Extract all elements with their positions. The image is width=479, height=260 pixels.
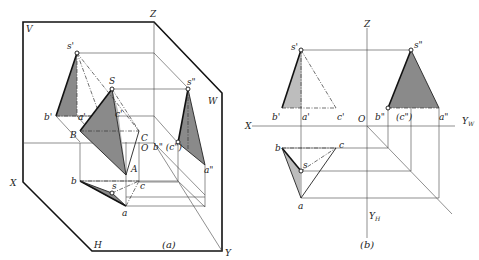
label-b-h: b [71, 176, 77, 186]
label-space-c: C [141, 133, 148, 143]
projection-diagram: V W H Z X Y O s' b' a' c' S B C A s" b" … [0, 0, 479, 260]
label-c-h: c [140, 181, 145, 191]
label-space-b: B [69, 130, 77, 140]
point-s-double-prime [186, 87, 190, 91]
label-space-s: S [109, 76, 115, 86]
label-x-axis-b: X [244, 121, 252, 131]
w-projection-face-b [388, 50, 439, 108]
label-a-prime: a' [78, 112, 86, 122]
caption-b: (b) [360, 239, 374, 250]
caption-a: (a) [162, 239, 176, 250]
label-b-prime: b' [44, 112, 52, 122]
label-s-double-prime: s" [187, 77, 196, 87]
label-b-h-b: b [275, 143, 281, 153]
label-yw: YW [462, 116, 475, 127]
label-origin-b: O [358, 114, 366, 124]
label-y-axis: Y [225, 248, 232, 258]
label-a-double-prime: a" [204, 165, 214, 175]
label-a-prime-b: a' [302, 112, 310, 122]
label-s-h-b: s [303, 160, 308, 170]
label-w-plane: W [208, 96, 218, 106]
label-a-h: a [122, 208, 127, 218]
label-x-axis: X [9, 178, 17, 188]
label-origin: O [141, 143, 149, 153]
label-c-double-prime-b: (c") [396, 112, 413, 122]
label-space-a: A [130, 164, 138, 174]
label-s-h: s [112, 181, 117, 191]
point-s [110, 87, 114, 91]
label-z-axis: Z [149, 9, 157, 19]
point-s-prime [75, 51, 79, 55]
label-h-plane: H [93, 240, 102, 250]
point-s-h [110, 191, 114, 195]
point-b-double-prime-b [386, 106, 390, 110]
point-s-double-prime-b [409, 48, 413, 52]
label-v-plane: V [26, 24, 34, 34]
label-bc-double-prime: b" (c") [153, 142, 182, 152]
label-b-double-prime-b: b" [375, 112, 385, 122]
figure-b: Z X O YW YH s' b' a' c' s" b" (c") a" b … [244, 19, 475, 250]
label-s-double-prime-b: s" [414, 40, 423, 50]
label-c-prime-b: c' [337, 112, 345, 122]
label-yh: YH [369, 211, 381, 222]
label-s-prime: s' [67, 41, 74, 51]
point-s-prime-b [299, 48, 303, 52]
label-b-prime-b: b' [272, 112, 280, 122]
label-c-h-b: c [339, 140, 344, 150]
label-a-h-b: a [298, 201, 303, 211]
label-s-prime-b: s' [291, 42, 298, 52]
label-c-prime: c' [115, 109, 123, 119]
label-z-axis-b: Z [363, 19, 371, 29]
figure-a: V W H Z X Y O s' b' a' c' S B C A s" b" … [9, 9, 232, 258]
label-a-double-prime-b: a" [439, 112, 449, 122]
